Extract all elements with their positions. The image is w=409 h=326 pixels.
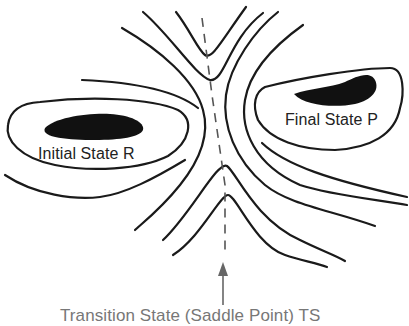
initial-state-label: Initial State R [38, 145, 135, 163]
contour-initial-outer [82, 80, 198, 108]
contour-initial-lower [5, 160, 185, 198]
initial-state-well [44, 114, 143, 140]
contour-top-1 [176, 7, 246, 56]
contour-bottom-2 [173, 195, 327, 267]
transition-state-caption: Transition State (Saddle Point) TS [60, 306, 320, 326]
contour-right-lower [262, 143, 407, 197]
final-state-well [294, 75, 376, 106]
contour-final-inner [255, 68, 403, 150]
final-state-label: Final State P [285, 111, 378, 129]
arrow-head-icon [218, 262, 228, 276]
contour-bottom-1 [163, 166, 345, 261]
